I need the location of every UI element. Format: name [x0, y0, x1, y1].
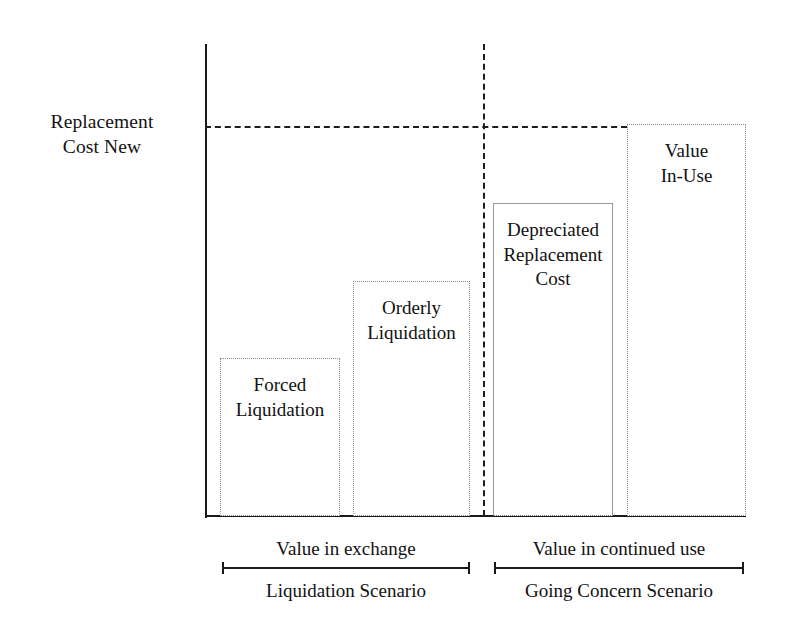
- group-upper-label-value-in-exchange: Value in exchange: [222, 538, 470, 561]
- bar-label-depreciated-replacement-cost: Depreciated Replacement Cost: [494, 218, 612, 292]
- bar-depreciated-replacement-cost: Depreciated Replacement Cost: [493, 203, 613, 516]
- group-lower-label-liquidation-scenario: Liquidation Scenario: [222, 580, 470, 603]
- bar-forced-liquidation: Forced Liquidation: [220, 358, 340, 516]
- bar-label-value-in-use: Value In-Use: [628, 139, 745, 188]
- group-bracket-liquidation: [222, 562, 470, 574]
- y-axis-line: [205, 44, 207, 518]
- bracket-cap-right: [468, 562, 470, 574]
- bracket-cap-right: [742, 562, 744, 574]
- bar-orderly-liquidation: Orderly Liquidation: [353, 281, 470, 516]
- replacement-cost-new-reference-line: [205, 126, 627, 128]
- group-upper-label-value-in-continued-use: Value in continued use: [494, 538, 744, 561]
- bracket-rule: [222, 567, 470, 569]
- group-lower-label-going-concern-scenario: Going Concern Scenario: [494, 580, 744, 603]
- bar-label-orderly-liquidation: Orderly Liquidation: [354, 296, 469, 345]
- bracket-rule: [494, 567, 744, 569]
- group-bracket-going-concern: [494, 562, 744, 574]
- bar-value-in-use: Value In-Use: [627, 124, 746, 516]
- y-axis-caption: Replacement Cost New: [12, 110, 192, 160]
- bar-label-forced-liquidation: Forced Liquidation: [221, 373, 339, 422]
- scenario-divider-line: [483, 44, 485, 516]
- valuation-premise-bar-chart: Replacement Cost New Forced Liquidation …: [0, 0, 786, 634]
